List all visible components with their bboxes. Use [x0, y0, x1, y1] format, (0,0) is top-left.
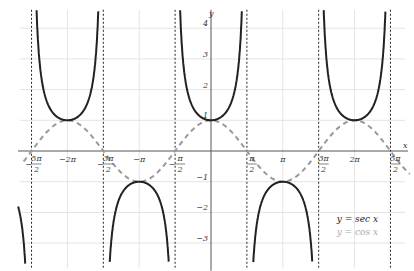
- svg-text:3: 3: [203, 50, 208, 59]
- svg-text:π: π: [279, 155, 286, 164]
- svg-text:−π: −π: [133, 155, 146, 164]
- svg-text:−: −: [25, 160, 32, 169]
- curves: [18, 10, 410, 264]
- svg-text:−2π: −2π: [59, 155, 77, 164]
- svg-text:y: y: [208, 9, 214, 18]
- svg-text:5π: 5π: [390, 154, 401, 163]
- svg-text:3π: 3π: [318, 154, 329, 163]
- svg-text:2: 2: [248, 165, 254, 174]
- tick-labels: xy5π2−−2π3π2−−ππ2−π2π3π22π5π2−3−2−11234: [25, 9, 408, 243]
- svg-text:2: 2: [320, 165, 326, 174]
- svg-text:1: 1: [203, 111, 208, 120]
- svg-text:−1: −1: [196, 173, 208, 182]
- svg-text:2: 2: [177, 165, 183, 174]
- legend-sec: y = sec x: [337, 214, 378, 224]
- svg-text:π: π: [248, 154, 255, 163]
- svg-text:−3: −3: [196, 234, 208, 243]
- svg-text:−: −: [97, 160, 104, 169]
- svg-text:−2: −2: [196, 203, 208, 212]
- svg-text:2: 2: [392, 165, 398, 174]
- svg-text:2π: 2π: [348, 155, 360, 164]
- svg-text:x: x: [403, 141, 408, 150]
- svg-text:2: 2: [202, 81, 208, 90]
- svg-text:2: 2: [33, 165, 39, 174]
- svg-text:π: π: [176, 154, 183, 163]
- svg-text:3π: 3π: [103, 154, 114, 163]
- legend-cos: y = cos x: [337, 227, 378, 237]
- svg-text:2: 2: [105, 165, 111, 174]
- svg-text:4: 4: [202, 19, 208, 28]
- svg-text:−: −: [169, 160, 176, 169]
- svg-text:5π: 5π: [31, 154, 42, 163]
